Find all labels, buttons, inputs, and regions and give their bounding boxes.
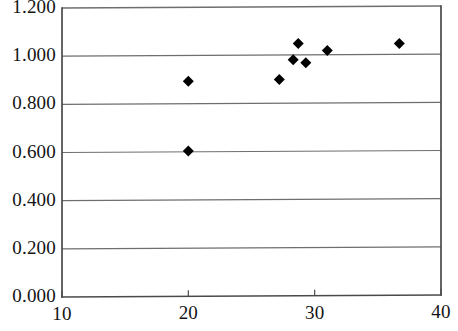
data-point-marker	[183, 76, 194, 87]
data-point-marker	[293, 38, 304, 49]
data-point-marker	[300, 57, 311, 68]
gridline	[62, 102, 441, 104]
data-point-marker	[183, 146, 194, 157]
y-axis-tick-label: 1.200	[0, 0, 56, 18]
gridline	[62, 151, 441, 153]
y-axis-tick-label: 0.800	[0, 92, 56, 114]
gridline	[62, 199, 441, 201]
y-axis-tick-label: 0.200	[0, 237, 56, 259]
x-axis-spine	[62, 295, 441, 297]
x-axis-tick-label: 20	[166, 302, 210, 324]
x-axis-tick-label: 40	[419, 301, 458, 323]
scatter-chart: 0.0000.2000.4000.6000.8001.0001.200 1020…	[0, 0, 458, 331]
y-axis-tick-label: 0.600	[0, 141, 56, 163]
data-point-marker	[288, 54, 299, 65]
gridlines	[62, 6, 441, 249]
y-axis-tick-label: 0.400	[0, 189, 56, 211]
x-axis-tick-label: 10	[40, 303, 84, 325]
gridline	[62, 247, 441, 249]
gridline	[62, 6, 441, 8]
data-point-marker	[394, 38, 405, 49]
y-axis-tick-label: 1.000	[0, 44, 56, 66]
plot-canvas	[0, 0, 458, 331]
gridline	[62, 54, 441, 56]
x-axis-tick-label: 30	[293, 302, 337, 324]
data-point-marker	[274, 74, 285, 85]
